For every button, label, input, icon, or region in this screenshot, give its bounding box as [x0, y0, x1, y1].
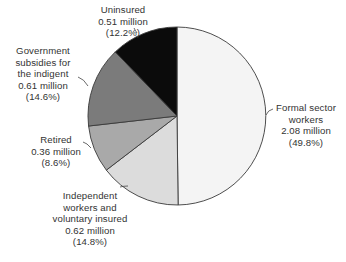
label-retired-line2: 0.36 million [26, 146, 86, 158]
label-independent: Independent workers and voluntary insure… [50, 190, 130, 248]
pie-slice-formal-sector-workers [177, 27, 266, 205]
label-formal-line4: (49.8%) [273, 137, 339, 149]
label-uninsured: Uninsured 0.51 million (12.2%) [90, 4, 156, 39]
pie-slices [88, 27, 266, 205]
leader-formal [266, 109, 273, 115]
label-uninsured-line3: (12.2%) [90, 27, 156, 39]
label-formal-line3: 2.08 million [273, 125, 339, 137]
label-government-line3: the indigent [8, 68, 78, 80]
label-retired-line1: Retired [26, 134, 86, 146]
label-government-line1: Government [8, 45, 78, 57]
label-formal-line2: workers [273, 114, 339, 126]
label-government: Government subsidies for the indigent 0.… [8, 45, 78, 103]
label-retired-line3: (8.6%) [26, 157, 86, 169]
label-government-line5: (14.6%) [8, 91, 78, 103]
label-uninsured-line2: 0.51 million [90, 16, 156, 28]
label-retired: Retired 0.36 million (8.6%) [26, 134, 86, 169]
label-government-line4: 0.61 million [8, 80, 78, 92]
label-formal-line1: Formal sector [273, 102, 339, 114]
label-independent-line5: (14.8%) [50, 236, 130, 248]
leader-government [78, 77, 88, 86]
label-government-line2: subsidies for [8, 57, 78, 69]
label-independent-line3: voluntary insured [50, 213, 130, 225]
label-independent-line1: Independent [50, 190, 130, 202]
label-formal: Formal sector workers 2.08 million (49.8… [273, 102, 339, 148]
label-independent-line2: workers and [50, 202, 130, 214]
label-independent-line4: 0.62 million [50, 225, 130, 237]
label-uninsured-line1: Uninsured [90, 4, 156, 16]
